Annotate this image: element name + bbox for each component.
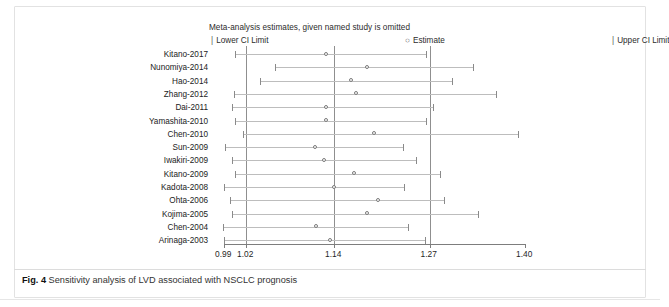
legend-item-upper-ci: |Upper CI Limit	[612, 35, 669, 46]
ci-line	[275, 67, 473, 68]
axis-tick-label: 1.02	[237, 249, 253, 259]
axis-tick	[246, 244, 247, 248]
lower-ci-cap	[235, 118, 236, 125]
estimate-marker	[328, 238, 332, 242]
lower-ci-cap	[232, 104, 233, 111]
lower-ci-cap	[223, 224, 224, 231]
upper-ci-cap	[426, 118, 427, 125]
estimate-marker	[322, 158, 326, 162]
ci-line	[232, 214, 478, 215]
forest-plot-figure: Meta-analysis estimates, given named stu…	[14, 6, 646, 268]
ci-line	[243, 134, 518, 135]
ci-line	[235, 54, 426, 55]
legend-label-lower-ci: Lower CI Limit	[216, 36, 268, 45]
upper-ci-cap	[416, 157, 417, 164]
lower-ci-cap	[232, 157, 233, 164]
axis-tick-label: 1.14	[325, 249, 341, 259]
lower-ci-cap	[232, 211, 233, 218]
x-axis: 0.991.021.141.271.40	[14, 244, 646, 266]
estimate-marker	[349, 78, 353, 82]
ci-line	[232, 107, 433, 108]
lower-ci-cap	[260, 78, 261, 85]
upper-ci-cap	[408, 224, 409, 231]
plot-area: Kitano-2017Nunomiya-2014Hao-2014Zhang-20…	[14, 46, 646, 254]
plot-canvas	[14, 46, 646, 254]
upper-ci-cap	[440, 171, 441, 178]
axis-tick	[334, 244, 335, 248]
upper-ci-cap	[518, 131, 519, 138]
figure-caption: Fig. 4 Sensitivity analysis of LVD assoc…	[22, 274, 622, 286]
upper-ci-cap	[452, 78, 453, 85]
axis-tick-label: 1.27	[421, 249, 437, 259]
lower-ci-cap	[224, 184, 225, 191]
estimate-marker	[376, 198, 380, 202]
legend-item-estimate: ○Estimate	[405, 35, 445, 46]
lower-ci-cap	[234, 91, 235, 98]
axis-tick-label: 0.99	[215, 249, 231, 259]
lower-ci-cap	[225, 144, 226, 151]
page-bottom-rule	[0, 299, 660, 300]
caption-text: Sensitivity analysis of LVD associated w…	[49, 275, 298, 285]
lower-ci-cap	[230, 197, 231, 204]
upper-ci-cap	[403, 144, 404, 151]
axis-tick	[430, 244, 431, 248]
axis-tick-label: 1.40	[516, 249, 532, 259]
ci-line	[234, 94, 495, 95]
lower-ci-cap	[275, 64, 276, 71]
caption-divider	[14, 269, 646, 270]
ci-line	[260, 81, 452, 82]
upper-ci-cap	[473, 64, 474, 71]
legend-item-lower-ci: |Lower CI Limit	[211, 35, 268, 46]
upper-ci-cap	[426, 51, 427, 58]
upper-ci-cap	[444, 197, 445, 204]
ci-line	[224, 240, 425, 241]
upper-ci-cap	[404, 184, 405, 191]
ci-line	[230, 200, 444, 201]
estimate-marker-icon: ○	[405, 35, 410, 46]
estimate-marker	[324, 118, 328, 122]
estimate-marker	[313, 145, 317, 149]
estimate-marker	[332, 185, 336, 189]
legend-row: |Lower CI Limit ○Estimate |Upper CI Limi…	[209, 35, 629, 46]
upper-ci-cap	[496, 91, 497, 98]
estimate-marker	[324, 52, 328, 56]
axis-tick	[224, 244, 225, 248]
estimate-marker	[324, 105, 328, 109]
legend-label-estimate: Estimate	[413, 36, 445, 45]
caption-label: Fig. 4	[22, 275, 46, 285]
lower-ci-cap	[235, 171, 236, 178]
axis-tick	[525, 244, 526, 248]
upper-ci-cap	[478, 211, 479, 218]
ci-line	[224, 187, 404, 188]
legend-label-upper-ci: Upper CI Limit	[617, 36, 669, 45]
legend-title: Meta-analysis estimates, given named stu…	[209, 23, 410, 33]
ci-line	[235, 121, 426, 122]
x-axis-line	[224, 244, 525, 245]
upper-ci-cap	[433, 104, 434, 111]
ci-line	[235, 174, 440, 175]
upper-ci-marker-icon: |	[612, 35, 614, 46]
lower-ci-cap	[235, 51, 236, 58]
lower-ci-cap	[243, 131, 244, 138]
lower-ci-marker-icon: |	[211, 35, 213, 46]
